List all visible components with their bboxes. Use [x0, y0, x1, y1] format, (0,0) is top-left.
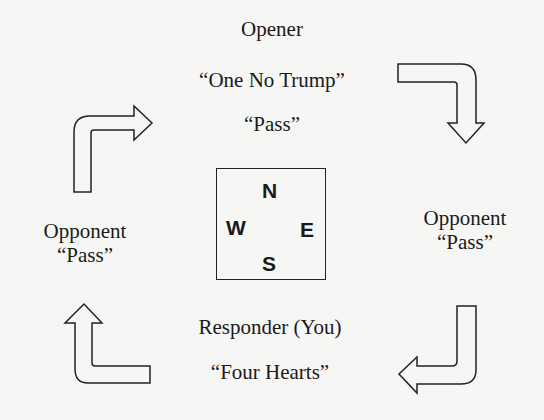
arrows: [0, 0, 544, 420]
arrow-east-to-south-icon: [399, 306, 476, 393]
arrow-south-to-west-icon: [65, 304, 150, 383]
arrow-north-to-east-icon: [398, 64, 484, 143]
arrow-west-to-north-icon: [74, 106, 152, 192]
